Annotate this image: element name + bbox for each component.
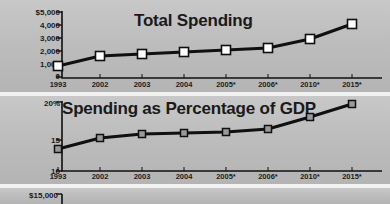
- chart-panel-spending-pct-gdp: Spending as Percentage of GDP 20% 15 10 …: [0, 96, 390, 184]
- plot-area-cropped: [0, 188, 390, 204]
- data-point-marker: [264, 44, 273, 53]
- chart-panel-total-spending: Total Spending $5,000 4,000 3,000 2,000 …: [0, 0, 390, 92]
- data-point-marker: [181, 130, 188, 137]
- data-point-marker: [223, 129, 230, 136]
- data-point-markers: [54, 20, 357, 71]
- plot-area-spending-pct-gdp: [0, 96, 390, 184]
- data-point-marker: [306, 35, 315, 44]
- data-point-marker: [348, 20, 357, 29]
- y-axis-ticks: [56, 102, 62, 171]
- data-point-markers: [55, 101, 356, 153]
- data-point-marker: [180, 48, 189, 57]
- data-point-marker: [97, 135, 104, 142]
- data-point-marker: [265, 126, 272, 133]
- data-point-marker: [349, 101, 356, 108]
- axis-lines: [62, 11, 382, 78]
- data-point-marker: [55, 146, 62, 153]
- figure-container: Total Spending $5,000 4,000 3,000 2,000 …: [0, 0, 390, 204]
- data-point-marker: [139, 131, 146, 138]
- chart-panel-cropped: $15,000: [0, 188, 390, 204]
- data-point-marker: [138, 50, 147, 59]
- data-point-marker: [222, 46, 231, 55]
- plot-area-total-spending: [0, 0, 390, 92]
- data-point-marker: [307, 114, 314, 121]
- data-point-marker: [54, 62, 63, 71]
- data-point-marker: [96, 52, 105, 61]
